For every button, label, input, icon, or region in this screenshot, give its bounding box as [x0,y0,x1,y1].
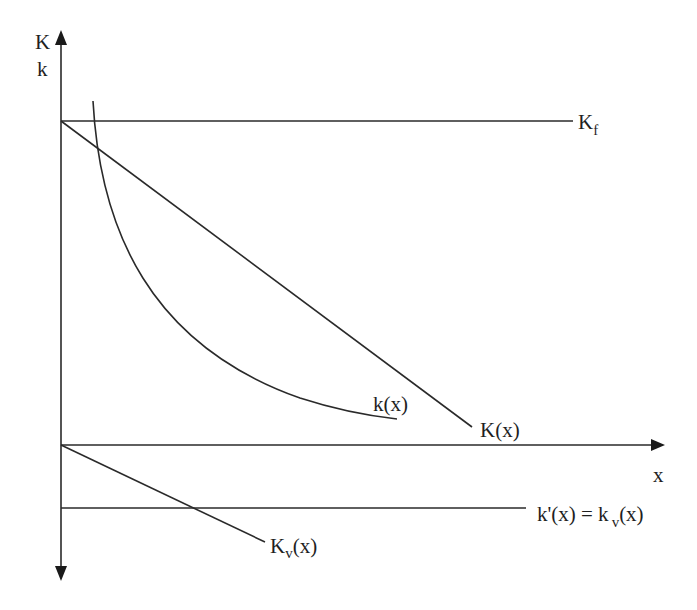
arrow-right-icon [651,439,665,451]
kf-label: Kf [578,110,598,138]
k-prime-label-main: k'(x) = k [537,502,609,526]
economics-diagram: K k x Kf k(x) K(x) k'(x) = kv(x) Kv(x) [0,0,697,610]
K-x-line [61,121,472,427]
kf-label-sub: f [593,122,598,138]
k-prime-label-tail: (x) [619,502,644,526]
Kv-x-label-tail: (x) [293,534,318,558]
arrow-up-icon [55,30,67,45]
K-x-label: K(x) [480,418,520,442]
horizontal-axis-label-x: x [653,463,664,487]
k-x-curve [93,101,397,419]
vertical-axis-label-K: K [35,30,50,54]
vertical-axis [55,30,67,581]
Kv-x-label: Kv(x) [270,534,317,561]
Kv-x-line [61,445,265,542]
horizontal-axis [61,439,665,451]
k-x-label: k(x) [373,392,408,416]
Kv-x-label-main: K [270,534,285,558]
kf-label-main: K [578,110,593,134]
vertical-axis-label-k: k [37,57,48,81]
k-prime-label: k'(x) = kv(x) [537,502,644,530]
arrow-down-icon [55,566,67,581]
